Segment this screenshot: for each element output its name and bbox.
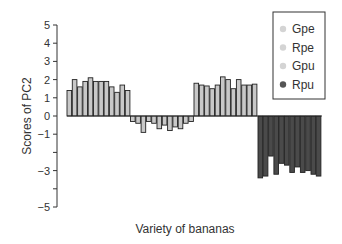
bar-rpu — [274, 116, 279, 174]
bar-rpu — [300, 116, 305, 172]
y-tick-label: −5 — [37, 201, 50, 213]
y-tick-label: 0 — [44, 110, 50, 122]
bar-gpe — [94, 81, 99, 116]
pc2-scores-bar-chart: 543210−1−3−5 Scores of PC2 Variety of ba… — [0, 0, 342, 244]
bar-rpu — [311, 116, 316, 174]
y-axis-title: Scores of PC2 — [20, 77, 34, 155]
y-tick-label: −1 — [37, 128, 50, 140]
x-axis-title: Variety of bananas — [135, 222, 234, 236]
legend-label-rpe: Rpe — [292, 41, 314, 55]
bar-gpe — [67, 91, 72, 116]
bar-gpu — [215, 85, 220, 116]
y-tick-label: 5 — [44, 19, 50, 31]
legend: GpeRpeGpuRpu — [273, 12, 325, 99]
bar-gpe — [120, 85, 125, 116]
bar-rpu — [263, 116, 268, 176]
bar-rpe — [184, 116, 189, 123]
bar-rpu — [295, 116, 300, 167]
bar-gpe — [125, 91, 130, 116]
bar-rpu — [258, 116, 263, 178]
bar-gpe — [115, 92, 120, 116]
bar-rpe — [131, 116, 136, 121]
bar-gpe — [104, 81, 109, 116]
bar-gpe — [72, 80, 77, 116]
bar-gpu — [226, 80, 231, 116]
bar-gpe — [78, 87, 83, 116]
bar-rpu — [279, 116, 284, 163]
bar-gpu — [242, 85, 247, 116]
bar-rpe — [173, 116, 178, 127]
bar-gpe — [88, 78, 93, 116]
bar-rpu — [316, 116, 321, 176]
bar-rpu — [285, 116, 290, 165]
bar-rpu — [306, 116, 311, 171]
bar-gpe — [99, 81, 104, 116]
bar-gpu — [236, 80, 241, 116]
bar-gpu — [247, 85, 252, 116]
legend-marker-rpu-icon — [280, 81, 286, 87]
bar-rpe — [168, 116, 173, 131]
bar-rpu — [290, 116, 295, 172]
bar-rpe — [178, 116, 183, 129]
bar-gpu — [194, 83, 199, 116]
bar-rpe — [157, 116, 162, 129]
y-tick-label: 1 — [44, 92, 50, 104]
bar-gpu — [205, 86, 210, 116]
legend-marker-gpu-icon — [280, 63, 286, 69]
y-tick-label: 3 — [44, 55, 50, 67]
y-tick-label: 4 — [44, 37, 50, 49]
bar-gpe — [109, 87, 114, 116]
bar-rpu — [269, 116, 274, 156]
legend-label-gpe: Gpe — [292, 22, 315, 36]
bar-gpu — [231, 89, 236, 116]
bar-gpu — [199, 85, 204, 116]
legend-label-gpu: Gpu — [292, 59, 315, 73]
y-axis: 543210−1−3−5 — [37, 19, 57, 213]
legend-marker-gpe-icon — [280, 26, 286, 32]
bar-rpe — [162, 116, 167, 125]
bar-gpu — [210, 89, 215, 116]
bar-rpe — [146, 116, 151, 121]
bar-gpu — [252, 84, 257, 116]
bar-rpe — [189, 116, 194, 121]
y-tick-label: −3 — [37, 165, 50, 177]
y-tick-label: 2 — [44, 74, 50, 86]
bar-gpe — [83, 81, 88, 116]
bar-rpe — [152, 116, 157, 123]
legend-label-rpu: Rpu — [292, 78, 314, 92]
legend-marker-rpe-icon — [280, 44, 286, 50]
bar-gpu — [221, 77, 226, 116]
bar-rpe — [136, 116, 141, 123]
bar-rpe — [141, 116, 146, 132]
